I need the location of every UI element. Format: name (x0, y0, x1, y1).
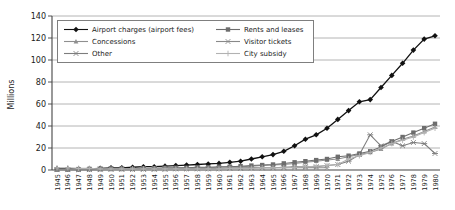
legend-label: City subsidy (244, 50, 287, 58)
y-tick-label: 100 (31, 56, 46, 65)
x-tick-label: 1973 (356, 174, 364, 191)
triangle-marker-icon (64, 37, 88, 46)
y-tick-label: 0 (41, 166, 46, 175)
x-tick-label: 1957 (183, 174, 191, 191)
legend-label: Rents and leases (244, 26, 303, 34)
x-tick-label: 1952 (129, 174, 137, 191)
legend-label: Other (92, 50, 112, 58)
x-tick-label: 1974 (367, 174, 375, 191)
x-tick-label: 1956 (172, 174, 180, 191)
chart-legend: Airport charges (airport fees)Concession… (57, 20, 314, 63)
x-tick-label: 1970 (324, 174, 332, 191)
x-marker-icon (216, 37, 240, 46)
legend-entry-rents-and-leases: Rents and leases (216, 25, 303, 34)
legend-column: Airport charges (airport fees)Concession… (64, 25, 194, 58)
x-tick-label: 1968 (302, 174, 310, 191)
x-tick-label: 1951 (118, 174, 126, 191)
x-tick-label: 1963 (248, 174, 256, 191)
x-tick-label: 1950 (108, 174, 116, 191)
legend-entry-city-subsidy: City subsidy (216, 49, 303, 58)
x-tick-label: 1964 (259, 174, 267, 191)
x-tick-label: 1965 (270, 174, 278, 191)
square-marker-icon (216, 25, 240, 34)
y-tick-label: 20 (36, 144, 46, 153)
x-tick-label: 1978 (410, 174, 418, 191)
x-tick-label: 1977 (399, 174, 407, 191)
x-tick-label: 1958 (194, 174, 202, 191)
y-tick-label: 120 (31, 34, 46, 43)
x-tick-label: 1955 (162, 174, 170, 191)
y-tick-label: 60 (36, 100, 46, 109)
x-tick-label: 1960 (216, 174, 224, 191)
y-tick-label: 80 (36, 78, 46, 87)
x-tick-label: 1966 (280, 174, 288, 191)
legend-column: Rents and leasesVisitor ticketsCity subs… (216, 25, 303, 58)
y-tick-label: 40 (36, 122, 46, 131)
legend-label: Concessions (92, 38, 135, 46)
y-tick-label: 140 (31, 12, 46, 21)
x-tick-label: 1947 (75, 174, 83, 191)
x-tick-label: 1949 (97, 174, 105, 191)
x-tick-label: 1972 (345, 174, 353, 191)
diamond-marker-icon (64, 25, 88, 34)
revenue-line-chart: 0204060801001201401945194619471948194919… (0, 0, 455, 210)
legend-entry-airport-charges-airport-fees-: Airport charges (airport fees) (64, 25, 194, 34)
x-tick-label: 1946 (64, 174, 72, 191)
x-tick-label: 1969 (313, 174, 321, 191)
x-tick-label: 1976 (388, 174, 396, 191)
x-tick-label: 1954 (151, 174, 159, 191)
legend-label: Airport charges (airport fees) (92, 26, 194, 34)
asterisk-marker-icon (64, 49, 88, 58)
x-tick-label: 1959 (205, 174, 213, 191)
series-city-subsidy (54, 125, 438, 171)
x-tick-label: 1967 (291, 174, 299, 191)
plus-marker-icon (216, 49, 240, 58)
x-tick-label: 1971 (334, 174, 342, 191)
legend-entry-visitor-tickets: Visitor tickets (216, 37, 303, 46)
series-rents-and-leases (55, 122, 437, 172)
x-tick-label: 1979 (421, 174, 429, 191)
x-tick-label: 1980 (432, 174, 440, 191)
x-tick-label: 1961 (226, 174, 234, 191)
legend-label: Visitor tickets (244, 38, 291, 46)
x-tick-label: 1953 (140, 174, 148, 191)
legend-entry-other: Other (64, 49, 194, 58)
x-tick-label: 1975 (378, 174, 386, 191)
x-tick-label: 1962 (237, 174, 245, 191)
y-axis-title: Millions (7, 71, 18, 119)
x-tick-label: 1948 (86, 174, 94, 191)
legend-entry-concessions: Concessions (64, 37, 194, 46)
x-tick-label: 1945 (54, 174, 62, 191)
